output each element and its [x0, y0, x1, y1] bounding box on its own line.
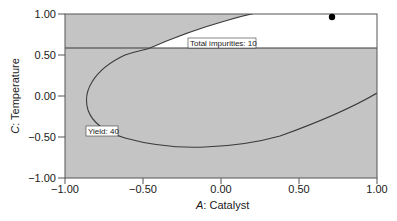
y-tick-label: 0.50 — [35, 49, 56, 61]
optimum-point-marker[interactable] — [329, 14, 335, 20]
y-axis-title: C: Temperature — [9, 58, 21, 134]
x-tick-label: 0.00 — [210, 183, 231, 195]
y-axis-factor: C — [9, 126, 21, 134]
y-tick-label: 0.00 — [35, 90, 56, 102]
overlay-contour-plot: Total impurities: 10 Yield: 40 1.00 0.50… — [0, 0, 397, 221]
x-tick-label: −0.50 — [129, 183, 157, 195]
x-tick-label: 0.50 — [288, 183, 309, 195]
y-axis — [58, 14, 65, 178]
y-axis-name: : Temperature — [9, 58, 21, 126]
impurities-contour-label: Total impurities: 10 — [188, 38, 257, 48]
x-axis-factor: A — [195, 199, 203, 211]
x-tick-label: 1.00 — [366, 183, 387, 195]
y-tick-label: −0.50 — [28, 131, 56, 143]
impurities-label-text: Total impurities: 10 — [190, 39, 257, 48]
y-tick-label: 1.00 — [35, 8, 56, 20]
yield-label-text: Yield: 40 — [88, 127, 119, 136]
x-axis-title: A: Catalyst — [195, 199, 249, 211]
x-axis-name: : Catalyst — [203, 199, 249, 211]
x-tick-label: −1.00 — [51, 183, 79, 195]
yield-contour-label: Yield: 40 — [86, 126, 119, 136]
